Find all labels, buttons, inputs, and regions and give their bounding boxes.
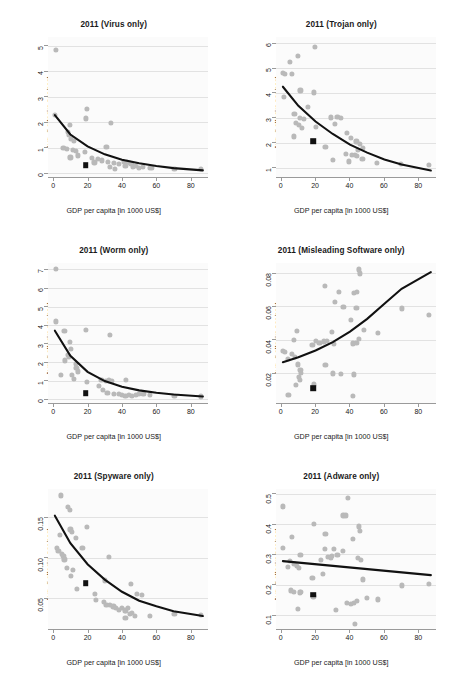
x-tick-mark — [122, 403, 123, 407]
x-tick-label: 80 — [187, 182, 195, 189]
y-tick: 5 — [228, 68, 272, 69]
y-tick: 4 — [0, 71, 44, 72]
y-tick: 5 — [0, 46, 44, 47]
x-tick-mark — [88, 629, 89, 633]
x-tick-label: 60 — [152, 182, 160, 189]
x-tick-label: 20 — [84, 182, 92, 189]
x-tick-mark — [281, 629, 282, 633]
y-tick: 7 — [0, 269, 44, 270]
x-tick-label: 80 — [187, 408, 195, 415]
x-tick-label: 20 — [311, 634, 319, 641]
x-axis-line — [48, 403, 208, 404]
x-axis-label: GDP per capita [in 1000 US$] — [228, 206, 455, 215]
y-tick: 0.05 — [0, 598, 44, 599]
x-tick-label: 40 — [346, 182, 354, 189]
fit-curve — [276, 37, 436, 177]
y-tick: 0 — [0, 173, 44, 174]
x-tick-label: 0 — [51, 408, 55, 415]
y-tick-label: 5 — [38, 307, 45, 311]
y-tick: 0.15 — [0, 517, 44, 518]
chart-panel-1: 2011 (Virus only)Avg. # attacks per host… — [0, 0, 228, 226]
chart-panel-3: 2011 (Worm only)Avg. # attacks per hostG… — [0, 226, 228, 452]
y-tick-label: 0.3 — [265, 554, 272, 564]
x-tick-label: 80 — [414, 182, 422, 189]
x-tick-mark — [53, 629, 54, 633]
y-tick-label: 4 — [265, 93, 272, 97]
x-tick-label: 0 — [279, 408, 283, 415]
x-axis-line — [276, 177, 436, 178]
x-tick-mark — [349, 629, 350, 633]
y-tick: 4 — [0, 325, 44, 326]
x-tick-label: 0 — [51, 182, 55, 189]
x-tick-label: 40 — [118, 408, 126, 415]
y-tick: 0.04 — [228, 340, 272, 341]
x-tick-label: 0 — [279, 634, 283, 641]
x-tick-label: 40 — [118, 634, 126, 641]
x-tick-label: 0 — [51, 634, 55, 641]
y-tick: 0.2 — [228, 585, 272, 586]
y-tick: 1 — [0, 148, 44, 149]
y-tick-label: 0.05 — [38, 598, 45, 612]
x-tick-mark — [384, 403, 385, 407]
x-axis-line — [276, 629, 436, 630]
y-tick: 3 — [0, 344, 44, 345]
chart-grid: 2011 (Virus only)Avg. # attacks per host… — [0, 0, 455, 678]
y-tick: 0.02 — [228, 373, 272, 374]
y-tick-label: 0.10 — [38, 558, 45, 572]
y-tick-label: 3 — [38, 344, 45, 348]
x-tick-label: 20 — [84, 408, 92, 415]
x-tick-mark — [53, 403, 54, 407]
x-axis-label: GDP per capita [in 1000 US$] — [0, 658, 228, 667]
x-tick-mark — [281, 177, 282, 181]
y-tick: 0.5 — [228, 494, 272, 495]
y-tick-label: 0.15 — [38, 517, 45, 531]
x-tick-mark — [349, 177, 350, 181]
panel-title: 2011 (Misleading Software only) — [228, 246, 455, 255]
fit-curve — [48, 263, 208, 403]
x-tick-mark — [156, 629, 157, 633]
chart-panel-4: 2011 (Misleading Software only)Avg. # at… — [228, 226, 455, 452]
x-axis-label: GDP per capita [in 1000 US$] — [228, 658, 455, 667]
panel-title: 2011 (Worm only) — [0, 246, 228, 255]
y-tick-label: 6 — [38, 288, 45, 292]
y-tick: 1 — [228, 168, 272, 169]
x-tick-mark — [349, 403, 350, 407]
x-tick-mark — [88, 403, 89, 407]
y-tick-label: 5 — [38, 46, 45, 50]
y-tick: 4 — [228, 93, 272, 94]
y-tick-label: 7 — [38, 269, 45, 273]
y-tick-label: 2 — [38, 122, 45, 126]
x-tick-label: 80 — [414, 408, 422, 415]
x-tick-mark — [315, 177, 316, 181]
y-tick: 6 — [0, 288, 44, 289]
x-tick-label: 80 — [187, 634, 195, 641]
y-tick-label: 4 — [38, 325, 45, 329]
x-tick-label: 60 — [152, 408, 160, 415]
x-tick-mark — [418, 177, 419, 181]
x-tick-label: 40 — [346, 408, 354, 415]
y-tick: 0.08 — [228, 273, 272, 274]
y-tick: 0.4 — [228, 524, 272, 525]
x-tick-label: 60 — [380, 408, 388, 415]
x-tick-label: 20 — [84, 634, 92, 641]
x-tick-mark — [191, 177, 192, 181]
y-tick: 1 — [0, 381, 44, 382]
x-tick-label: 60 — [380, 634, 388, 641]
y-tick: 2 — [0, 362, 44, 363]
x-tick-mark — [281, 403, 282, 407]
chart-panel-6: 2011 (Adware only)Avg. # attacks per hos… — [228, 452, 455, 678]
y-tick-label: 0.4 — [265, 524, 272, 534]
x-tick-mark — [122, 629, 123, 633]
fit-curve — [48, 37, 208, 177]
y-tick: 0.06 — [228, 306, 272, 307]
y-tick: 0.3 — [228, 554, 272, 555]
y-tick: 0.1 — [228, 615, 272, 616]
x-tick-label: 60 — [152, 634, 160, 641]
x-tick-label: 60 — [380, 182, 388, 189]
x-tick-mark — [384, 177, 385, 181]
x-tick-mark — [315, 403, 316, 407]
x-tick-mark — [122, 177, 123, 181]
y-tick-label: 6 — [265, 43, 272, 47]
x-tick-mark — [418, 403, 419, 407]
x-axis-label: GDP per capita [in 1000 US$] — [228, 432, 455, 441]
